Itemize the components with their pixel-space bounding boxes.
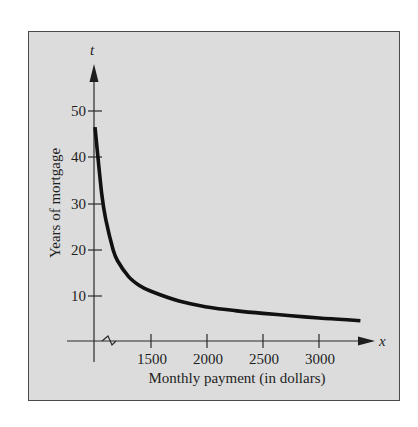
x-tick-label: 1500 <box>137 351 167 367</box>
y-tick-label: 40 <box>71 149 86 165</box>
x-tick-label: 3000 <box>305 351 335 367</box>
x-axis-title: Monthly payment (in dollars) <box>148 370 325 387</box>
y-tick-label: 10 <box>71 288 86 304</box>
y-tick-label: 20 <box>71 242 86 258</box>
y-axis-variable: t <box>90 42 95 58</box>
x-axis-arrow-icon <box>358 337 375 346</box>
y-axis-title: Years of mortgage <box>47 148 63 258</box>
x-axis-variable: x <box>378 333 386 349</box>
data-curve <box>95 127 360 321</box>
y-axis-arrow-icon <box>90 64 99 82</box>
x-tick-label: 2000 <box>193 351 223 367</box>
chart-svg: t x 10 20 30 40 50 1500 2000 2500 3000 M… <box>0 0 418 427</box>
x-tick-label: 2500 <box>249 351 279 367</box>
x-ticks: 1500 2000 2500 3000 <box>137 334 335 367</box>
y-tick-label: 50 <box>71 103 86 119</box>
y-tick-label: 30 <box>71 196 86 212</box>
